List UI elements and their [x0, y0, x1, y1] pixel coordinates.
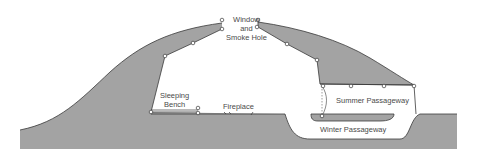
fireplace-label: Fireplace	[223, 102, 254, 111]
window-label: Window and Smoke Hole	[226, 15, 267, 42]
winter-passageway-label: Winter Passageway	[320, 125, 386, 134]
sleeping-label-line1: Sleeping	[160, 91, 189, 100]
right-dome-wall	[258, 22, 414, 85]
sleeping-label-line2: Bench	[160, 100, 189, 109]
window-label-line2: and	[226, 24, 267, 33]
door-curtain	[322, 86, 327, 116]
sleeping-bench-label: Sleeping Bench	[160, 91, 189, 109]
window-label-line1: Window	[226, 15, 267, 24]
window-label-line3: Smoke Hole	[226, 33, 267, 42]
summer-passageway-label: Summer Passageway	[336, 96, 409, 105]
